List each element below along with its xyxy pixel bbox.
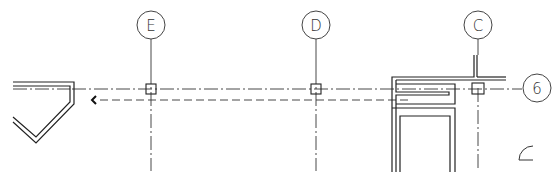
bubble-E: E [137, 11, 165, 39]
bubble-6-label: 6 [532, 80, 542, 98]
bubble-C-label: C [473, 17, 483, 35]
bubble-E-label: E [146, 17, 155, 35]
bubble-D-label: D [310, 17, 322, 35]
bubble-C: C [464, 11, 492, 39]
right-wall [392, 55, 506, 172]
vertical-gridlines [151, 39, 478, 171]
bubble-6: 6 [523, 74, 551, 102]
left-wall [13, 82, 74, 143]
bubble-D: D [302, 11, 330, 39]
floor-plan-drawing: E D C 6 [0, 0, 557, 178]
arrow-mark [92, 96, 96, 104]
door-swing-arc [519, 146, 533, 160]
